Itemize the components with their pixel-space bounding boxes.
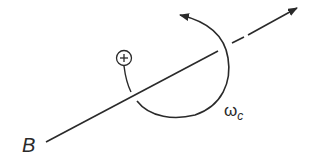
cyclotron-diagram: B ωc — [0, 0, 315, 165]
rotation-arc-arrow — [137, 15, 229, 117]
label-omega-c: ωc — [224, 101, 243, 123]
label-b: B — [22, 134, 35, 156]
field-line-b — [46, 8, 297, 142]
positive-charge — [117, 51, 132, 66]
charge-trail — [124, 66, 131, 92]
